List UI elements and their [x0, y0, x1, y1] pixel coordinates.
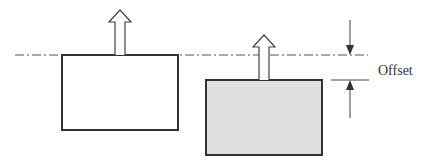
- offset-label: Offset: [378, 63, 413, 78]
- reference-block-body: [62, 55, 178, 130]
- offset-block: [206, 35, 322, 155]
- offset-dimension: Offset: [331, 20, 413, 118]
- offset-diagram: Offset: [0, 0, 430, 163]
- reference-block: [62, 10, 178, 130]
- offset-block-up-arrow-icon: [253, 35, 275, 80]
- dimension-down-arrow-icon: [346, 45, 354, 55]
- reference-block-up-arrow-icon: [109, 10, 131, 55]
- dimension-up-arrow-icon: [346, 80, 354, 90]
- offset-block-body: [206, 80, 322, 155]
